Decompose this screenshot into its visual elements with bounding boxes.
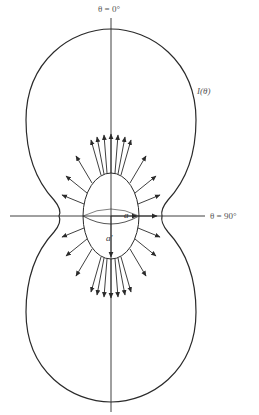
- intensity-curve-label: I(θ): [197, 86, 210, 96]
- theta-ninety-label: θ = 90°: [210, 211, 237, 221]
- scattering-diagram: [0, 0, 259, 415]
- theta-zero-label: θ = 0°: [98, 4, 120, 14]
- semi-axis-a-prime-label: a′: [106, 233, 112, 243]
- semi-axis-a-label: a: [124, 210, 129, 220]
